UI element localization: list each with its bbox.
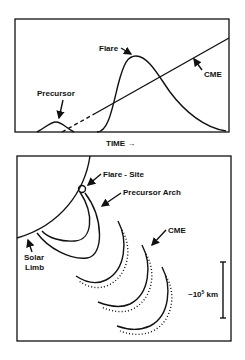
precursor-arch-label: Precursor Arch — [123, 188, 181, 197]
cme-arrow-bottom — [152, 230, 166, 245]
flare-label: Flare — [99, 44, 119, 53]
precursor-arch-arrow — [102, 193, 121, 206]
cme-label-bottom: CME — [168, 226, 186, 235]
cme-front-3 — [117, 267, 168, 329]
cme-front-2-hatch — [101, 254, 152, 312]
cme-fronts — [76, 221, 172, 334]
precursor-curve — [37, 122, 74, 132]
solar-limb-arrow — [28, 240, 32, 252]
cme-arrow — [194, 59, 202, 70]
solar-limb-label-1: Solar — [24, 253, 44, 262]
top-panel-frame — [15, 19, 229, 132]
precursor-arch-inner — [42, 192, 90, 241]
cme-line-dashed — [62, 113, 96, 132]
flare-curve — [97, 56, 226, 132]
solar-limb-arc — [17, 156, 90, 238]
solar-limb-label-2: Limb — [25, 263, 44, 272]
scale-label: ~105 km — [188, 289, 218, 299]
diagram-figure: Flare CME Precursor TIME → Flare - Site — [0, 0, 245, 360]
geometry-panel: Flare - Site Precursor Arch CME Solar Li… — [17, 156, 231, 341]
scale-bar: ~105 km — [188, 262, 226, 318]
time-axis-label: TIME → — [106, 139, 135, 148]
time-profile-panel: Flare CME Precursor TIME → — [15, 19, 229, 148]
precursor-label: Precursor — [37, 89, 75, 98]
cme-label: CME — [204, 70, 222, 79]
precursor-arch-outer — [37, 193, 100, 258]
flare-arrow — [121, 48, 131, 54]
flare-site-label: Flare - Site — [103, 170, 144, 179]
precursor-arrow — [59, 100, 63, 118]
flare-site-arrow — [88, 174, 101, 185]
